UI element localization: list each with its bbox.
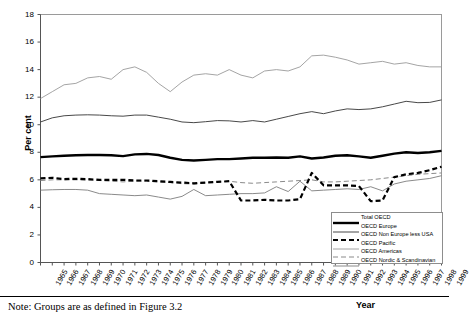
legend-label: OECD Europe — [361, 223, 397, 229]
series-line — [41, 100, 442, 123]
legend-line-sample — [333, 256, 359, 264]
series-line — [41, 167, 442, 201]
figure-note: Note: Groups are as defined in Figure 3.… — [8, 301, 182, 312]
y-tick-label: 8 — [18, 147, 34, 156]
y-tick-label: 14 — [18, 65, 34, 74]
chart-legend: Total OECDOECD EuropeOECD Non Europe les… — [331, 212, 443, 264]
legend-item: Total OECD — [332, 213, 442, 222]
legend-item: OECD Nordic & Scandinavian — [332, 256, 442, 265]
legend-line-sample — [333, 213, 359, 221]
y-tick-label: 0 — [18, 258, 34, 267]
y-tick-label: 16 — [18, 37, 34, 46]
legend-line-sample — [333, 222, 359, 230]
y-tick-label: 10 — [18, 120, 34, 129]
legend-line-sample — [333, 230, 359, 238]
legend-item: OECD Americas — [332, 247, 442, 256]
y-tick-label: 6 — [18, 175, 34, 184]
series-line — [41, 173, 442, 184]
legend-label: OECD Nordic & Scandinavian — [361, 257, 435, 263]
legend-label: OECD Pacific — [361, 240, 395, 246]
footer-divider — [0, 296, 449, 297]
y-tick-label: 12 — [18, 92, 34, 101]
legend-label: OECD Americas — [361, 248, 402, 254]
legend-line-sample — [333, 247, 359, 255]
legend-item: OECD Pacific — [332, 239, 442, 248]
legend-item: OECD Non Europe less USA — [332, 230, 442, 239]
legend-line-sample — [333, 239, 359, 247]
y-tick-label: 18 — [18, 10, 34, 19]
legend-item: OECD Europe — [332, 222, 442, 231]
series-line — [41, 55, 442, 98]
legend-label: Total OECD — [361, 214, 391, 220]
series-line — [41, 151, 442, 161]
x-axis-title: Year — [356, 300, 375, 310]
y-tick-label: 2 — [18, 230, 34, 239]
legend-label: OECD Non Europe less USA — [361, 231, 433, 237]
y-tick-label: 4 — [18, 202, 34, 211]
